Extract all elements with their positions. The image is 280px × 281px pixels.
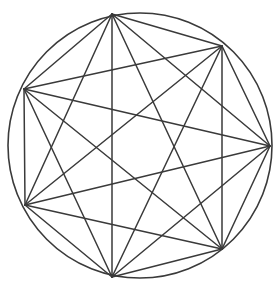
graph-edge-v1-v7	[24, 14, 112, 89]
edge-layer	[24, 14, 270, 277]
circumscribing-circle	[8, 13, 272, 278]
graph-edge-v5-v6	[25, 205, 112, 277]
graph-edge-v1-v6	[25, 14, 112, 205]
graph-edge-v3-v7	[24, 89, 270, 146]
graph-edge-v2-v7	[24, 46, 222, 89]
graph-edge-v3-v4	[222, 146, 270, 249]
graph-edge-v1-v3	[112, 14, 270, 146]
graph-edge-v4-v6	[25, 205, 222, 249]
graph-edge-v4-v7	[24, 89, 222, 249]
graph-diagram-svg	[0, 0, 280, 281]
graph-edge-v6-v7	[24, 89, 25, 205]
figure-container	[0, 0, 280, 281]
graph-edge-v5-v7	[24, 89, 112, 277]
